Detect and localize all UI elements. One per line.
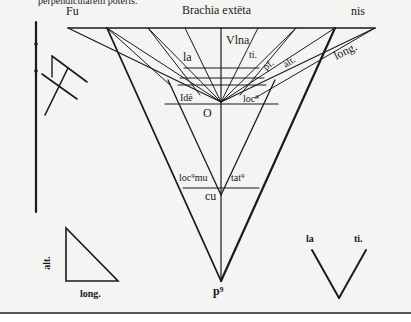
label-la: la (183, 51, 192, 63)
label-fu: Fu (66, 5, 79, 17)
label-triangle-long: long. (80, 289, 101, 299)
outer-right-arm (221, 28, 335, 281)
label-idem: Idē (180, 93, 193, 103)
label-pus: p⁹ (213, 285, 223, 297)
label-v-ti: ti. (354, 234, 363, 244)
page-margin (0, 314, 411, 322)
woodcut-diagram: perpendicularem poteris. Fu Brachia extē… (0, 0, 411, 322)
label-nis: nis (351, 5, 365, 17)
label-cu: cu (205, 190, 216, 202)
label-o: O (203, 107, 212, 119)
label-locomu: loc⁹mu (179, 173, 207, 183)
label-brachia: Brachia extēta (182, 4, 251, 16)
label-locus: loc⁹ (243, 94, 259, 104)
label-ti: ti. (249, 50, 257, 60)
triangle-alt-long (66, 228, 118, 281)
label-v-la: la (306, 234, 314, 244)
label-vlna: Vlna (226, 34, 249, 46)
label-triangle-alt: alt. (42, 256, 52, 270)
label-tatus: tat⁹ (231, 173, 244, 183)
caption-top: perpendicularem poteris. (38, 0, 137, 6)
